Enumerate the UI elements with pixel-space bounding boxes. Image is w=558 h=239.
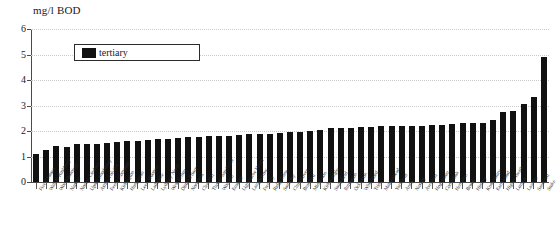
bar-slot [539, 29, 549, 182]
y-axis-tick-label: 4 [4, 75, 26, 85]
x-label-slot: Ansty [397, 189, 407, 239]
y-axis-tick-label: 3 [4, 101, 26, 111]
y-axis-tick-label: 0 [4, 177, 26, 187]
x-label-slot: Ladbroke [143, 189, 153, 239]
bar [378, 126, 384, 182]
bar-slot [478, 29, 488, 182]
x-label-slot: Clee Hill [194, 189, 204, 239]
bar-slot [519, 29, 529, 182]
bar-slot [356, 29, 366, 182]
bar-slot [346, 29, 356, 182]
bar-slot [508, 29, 518, 182]
bar-slot [407, 29, 417, 182]
bar-slot [234, 29, 244, 182]
x-label-slot: Wall & Rushbury [41, 189, 51, 239]
bar-slot [265, 29, 275, 182]
bar [531, 97, 537, 182]
bar-slot [417, 29, 427, 182]
x-label-slot: Bradford [295, 189, 305, 239]
x-label-slot: Lawton [519, 189, 529, 239]
x-label-slot: Norton Lindsey [72, 189, 82, 239]
bar-slot [295, 29, 305, 182]
x-label-slot: Leek Wootton [133, 189, 143, 239]
legend-box: tertiary [74, 44, 200, 61]
x-label-slot: Combrook [437, 189, 447, 239]
bar [409, 126, 415, 182]
bar-slot [447, 29, 457, 182]
x-label-slot: Averham [417, 189, 427, 239]
bar-slot [376, 29, 386, 182]
x-label-slot: Langberrow [244, 189, 254, 239]
x-label-slot: Hognaston [427, 189, 437, 239]
x-label-slot: Yarnfield [386, 189, 396, 239]
x-label-slot: Hungarton [122, 189, 132, 239]
x-label-slot: Ilmington [336, 189, 346, 239]
x-label-slot: Woodsborough [51, 189, 61, 239]
bar-slot [397, 29, 407, 182]
bar-slot [336, 29, 346, 182]
bar-slot [204, 29, 214, 182]
bar-slot [468, 29, 478, 182]
bar-slot [366, 29, 376, 182]
y-axis-tick-label: 2 [4, 126, 26, 136]
x-label-slot: Stoke [539, 189, 549, 239]
x-label-slot: Himley [468, 189, 478, 239]
legend-label-tertiary: tertiary [99, 47, 128, 58]
bar-slot [41, 29, 51, 182]
x-label-slot: Ockbrook [346, 189, 356, 239]
x-label-slot: Ridge Lane [265, 189, 275, 239]
x-label-slot: Southfield [326, 189, 336, 239]
bar-slot [458, 29, 468, 182]
x-label-slot: Enstone [224, 189, 234, 239]
x-label-slot: Hempton [447, 189, 457, 239]
bar-slot [488, 29, 498, 182]
x-label-slot: Lighthorne Heath [234, 189, 244, 239]
x-label-slot: Wootton [214, 189, 224, 239]
bar-slot [31, 29, 41, 182]
x-label-slot: Upton Snodsbury [82, 189, 92, 239]
x-label-slot: Brook [458, 189, 468, 239]
x-label-slot: Middleton [305, 189, 315, 239]
x-label-slot: Ashby Folville [92, 189, 102, 239]
x-label-slot: Kirkington [112, 189, 122, 239]
bar-slot [305, 29, 315, 182]
x-label-slot: Lydbury North [153, 189, 163, 239]
x-label-slot: Earlswood [488, 189, 498, 239]
y-axis-labels: 0123456 [0, 0, 26, 239]
bod-bar-chart: mg/l BOD 0123456 Five CrossesWall & Rush… [0, 0, 558, 239]
bar-slot [275, 29, 285, 182]
x-label-slot: Ditton Priors [173, 189, 183, 239]
bar [541, 57, 547, 182]
chart-title: mg/l BOD [33, 4, 81, 16]
x-label-slot: Sandford [529, 189, 539, 239]
x-label-slot: Whichford [356, 189, 366, 239]
x-label-slot: Thorpe Satchville [204, 189, 214, 239]
bar-slot [427, 29, 437, 182]
x-label-slot: Trim [366, 189, 376, 239]
bar-slot [529, 29, 539, 182]
x-label-slot: Napton [61, 189, 71, 239]
x-label-slot: Maidenhead [376, 189, 386, 239]
x-label-slot: Naseby [407, 189, 417, 239]
x-label-slot: Five Crosses [31, 189, 41, 239]
bar-slot [326, 29, 336, 182]
bar-slot [244, 29, 254, 182]
bar [470, 123, 476, 182]
x-label-slot: Churchover [285, 189, 295, 239]
y-axis-tick-label: 5 [4, 50, 26, 60]
x-label-slot: Somerby [275, 189, 285, 239]
x-label-slot: Longue [508, 189, 518, 239]
x-label-slot: Northend [183, 189, 193, 239]
bar [33, 154, 39, 182]
x-label-slot: Kirk Langley [315, 189, 325, 239]
bar [419, 126, 425, 182]
y-axis-tick-label: 6 [4, 24, 26, 34]
x-label-slot: Feeny Compton [102, 189, 112, 239]
bar-slot [51, 29, 61, 182]
x-label-slot: Knowsbury [478, 189, 488, 239]
x-axis-labels: Five CrossesWall & RushburyWoodsboroughN… [31, 189, 549, 239]
x-label-slot: West Felton [163, 189, 173, 239]
bar-slot [315, 29, 325, 182]
x-label-slot: Frenshy [254, 189, 264, 239]
bar-slot [214, 29, 224, 182]
